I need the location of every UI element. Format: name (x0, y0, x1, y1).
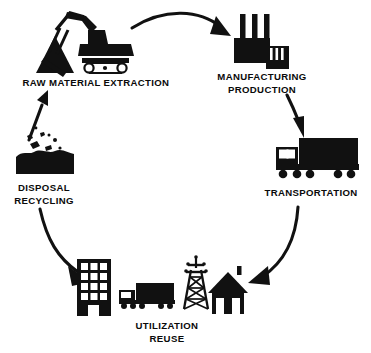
arrow-manufacturing-to-transportation (287, 95, 304, 138)
arrow-extraction-to-manufacturing (132, 13, 231, 36)
power-pylon-icon (184, 255, 208, 309)
house-icon (208, 266, 248, 314)
office-building-icon (77, 259, 111, 316)
label-raw-material-extraction: RAW MATERIAL EXTRACTION (23, 77, 170, 88)
label-utilization-line2: REUSE (150, 333, 185, 344)
arrow-transportation-to-utilization (248, 207, 298, 285)
factory-icon (234, 14, 289, 69)
label-manufacturing-line2: PRODUCTION (228, 84, 296, 95)
waste-pile-icon (16, 127, 74, 174)
lifecycle-canvas: RAW MATERIAL EXTRACTION MANUFACTURING PR… (0, 0, 371, 353)
truck-icon (276, 138, 359, 178)
label-transportation: TRANSPORTATION (264, 187, 357, 198)
arrow-disposal-to-extraction (29, 90, 48, 140)
label-disposal-line1: DISPOSAL (18, 182, 70, 193)
delivery-truck-icon (119, 283, 175, 309)
label-utilization-line1: UTILIZATION (136, 320, 199, 331)
label-disposal-line2: RECYCLING (14, 195, 74, 206)
lifecycle-diagram: RAW MATERIAL EXTRACTION MANUFACTURING PR… (0, 0, 371, 353)
excavator-icon (36, 12, 134, 77)
label-manufacturing-line1: MANUFACTURING (217, 71, 306, 82)
